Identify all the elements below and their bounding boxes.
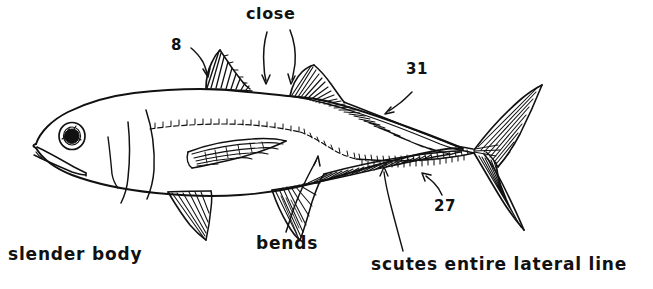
- label-scutes: scutes entire lateral line: [371, 256, 627, 273]
- label-dorsal-count: 8: [171, 38, 181, 53]
- label-anal-count: 27: [434, 199, 456, 214]
- label-second-dorsal-count: 31: [406, 62, 428, 77]
- label-close: close: [246, 6, 295, 22]
- label-bends: bends: [256, 235, 318, 252]
- fish-eye: [59, 123, 85, 150]
- label-slender-body: slender body: [8, 246, 142, 263]
